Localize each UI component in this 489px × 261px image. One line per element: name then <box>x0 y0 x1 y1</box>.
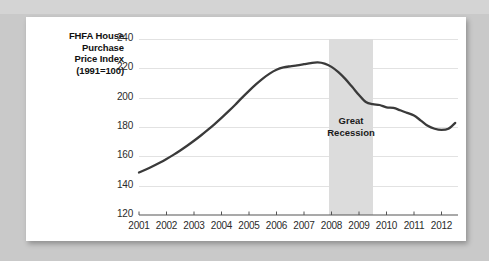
y-tick-label-160: 160 <box>103 149 133 160</box>
y-tick-label-240: 240 <box>103 32 133 43</box>
y-tick-label-220: 220 <box>103 61 133 72</box>
y-tick-label-200: 200 <box>103 91 133 102</box>
background-top-band <box>0 0 489 14</box>
line-series-svg <box>26 17 466 241</box>
y-tick-label-120: 120 <box>103 208 133 219</box>
x-tick-label-2012: 2012 <box>425 220 459 231</box>
figure-card: FHFA House Purchase Price Index (1991=10… <box>26 17 466 241</box>
y-tick-label-140: 140 <box>103 179 133 190</box>
price-index-line <box>139 62 455 172</box>
y-tick-label-180: 180 <box>103 120 133 131</box>
chart-plot-area: FHFA House Purchase Price Index (1991=10… <box>26 17 466 241</box>
